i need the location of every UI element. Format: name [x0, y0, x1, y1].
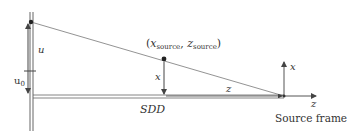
detector-point [29, 20, 33, 24]
label-frame-x: x [290, 62, 296, 72]
label-frame-z: z [311, 99, 316, 109]
label-u: u [38, 45, 44, 55]
source-origin [283, 95, 286, 98]
label-source-point: (xsource, zsource) [146, 38, 221, 51]
label-x-distance: x [155, 72, 161, 82]
label-source-frame: Source frame [275, 113, 347, 124]
ray-line [31, 22, 284, 96]
label-sdd: SDD [140, 104, 165, 115]
label-u0: u0 [14, 76, 25, 88]
source-point [162, 57, 167, 62]
sdd-axis [33, 95, 284, 98]
label-z-distance: z [226, 84, 231, 94]
